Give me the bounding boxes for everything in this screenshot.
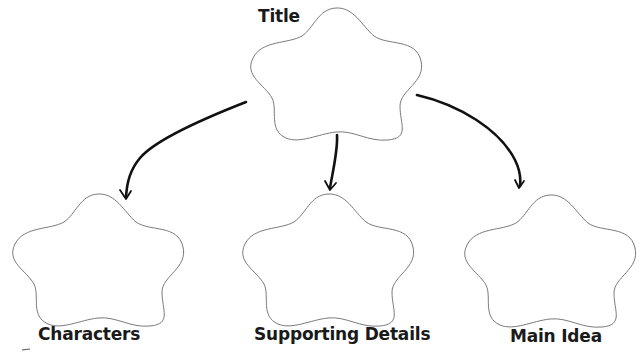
title-label: Title — [258, 6, 300, 26]
arrow-title-to-supporting-details — [325, 135, 337, 190]
characters-label: Characters — [38, 324, 140, 344]
stray-mark — [22, 349, 30, 350]
supporting-details-label: Supporting Details — [254, 324, 430, 344]
main-idea-label: Main Idea — [510, 326, 602, 346]
diagram-canvas — [0, 0, 643, 352]
supporting-details-flower-node — [243, 194, 414, 326]
arrow-title-to-characters — [120, 102, 246, 199]
characters-flower-node — [13, 194, 184, 326]
arrow-title-to-main-idea — [417, 95, 524, 188]
title-flower-node — [251, 8, 422, 140]
main-idea-flower-node — [465, 195, 636, 327]
